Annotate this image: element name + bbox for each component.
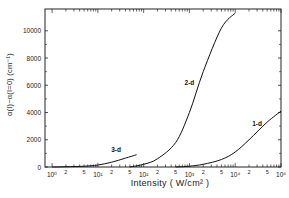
x-tick-label: 10⁴	[230, 171, 240, 178]
y-tick-label: 10000	[23, 27, 41, 34]
x-minor-label: 2	[247, 169, 250, 175]
curves	[52, 13, 281, 167]
x-tick-label: 10³	[185, 171, 195, 178]
curve-2-d	[130, 13, 235, 167]
x-tick-label: 10²	[139, 171, 149, 178]
chart: 0200040006000800010000 10⁰2510¹2510²2510…	[0, 0, 289, 198]
x-axis-label: Intensity ( W/cm² )	[100, 178, 240, 188]
x-minor-label: 2	[64, 169, 67, 175]
curve-labels: 3-d2-d1-d	[111, 79, 262, 153]
x-minor-label: 5	[174, 169, 177, 175]
label-3-d: 3-d	[111, 146, 121, 153]
curve-3-d	[52, 155, 137, 167]
x-minor-label: 2	[202, 169, 205, 175]
label-1-d: 1-d	[252, 120, 262, 127]
x-tick-label: 10⁰	[47, 171, 57, 178]
x-minor-label: 5	[83, 169, 86, 175]
y-axis-ticks: 0200040006000800010000	[23, 27, 281, 170]
y-tick-label: 0	[37, 164, 41, 171]
x-minor-label: 5	[128, 169, 131, 175]
y-tick-label: 6000	[27, 82, 42, 89]
y-tick-label: 8000	[27, 55, 42, 62]
x-minor-label: 5	[266, 169, 269, 175]
label-2-d: 2-d	[185, 79, 195, 86]
curve-1-d	[176, 111, 281, 167]
x-tick-label: 10⁵	[276, 171, 286, 178]
y-tick-label: 4000	[27, 109, 42, 116]
x-tick-label: 10¹	[93, 171, 103, 178]
y-axis-label: α(I)−α(I=0) (cm⁻¹)	[5, 30, 14, 140]
y-tick-label: 2000	[27, 136, 42, 143]
x-axis-ticks: 10⁰2510¹2510²2510³2510⁴2510⁵	[47, 9, 286, 178]
x-minor-label: 5	[220, 169, 223, 175]
x-minor-label: 2	[156, 169, 159, 175]
x-minor-label: 2	[110, 169, 113, 175]
